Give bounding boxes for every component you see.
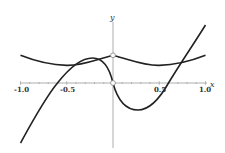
x-axis-label: x <box>210 80 215 89</box>
x-tick-label-neg05: -0.5 <box>60 85 75 94</box>
chart: -1.0 -0.5 0.5 1.0 x y <box>0 0 225 153</box>
y-axis-label: y <box>109 13 115 22</box>
open-circle-origin <box>111 81 116 86</box>
x-tick-label-neg1: -1.0 <box>14 85 29 94</box>
open-circle-upper <box>111 53 116 58</box>
